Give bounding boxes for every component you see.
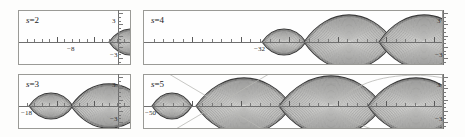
y-axis-tick xyxy=(443,13,448,14)
axis-tick xyxy=(338,101,339,106)
panel-s3-y-bottom-label: −3 xyxy=(110,115,117,123)
axis-tick xyxy=(173,39,174,42)
axis-tick xyxy=(87,39,88,42)
y-axis-tick xyxy=(443,77,448,78)
axis-tick xyxy=(42,103,43,106)
panel-s4-x-axis xyxy=(144,42,442,43)
axis-tick xyxy=(109,103,110,106)
axis-tick xyxy=(72,39,73,42)
axis-tick xyxy=(328,103,329,106)
axis-tick xyxy=(241,37,242,42)
y-axis-tick xyxy=(443,81,446,82)
axis-tick xyxy=(260,39,261,42)
panel-s5-plot-area: s=5 −50 xyxy=(144,75,442,128)
axis-tick xyxy=(231,39,232,42)
y-axis-tick xyxy=(443,17,446,18)
panel-s5-x-min-label: −50 xyxy=(145,109,156,117)
y-axis-tick xyxy=(443,115,446,116)
panel-s3-label-value: 3 xyxy=(35,79,40,89)
y-axis-tick xyxy=(118,62,121,63)
y-axis-tick xyxy=(118,103,121,104)
axis-tick xyxy=(270,39,271,42)
axis-tick xyxy=(27,103,28,106)
y-axis-tick xyxy=(118,58,123,59)
y-axis-tick xyxy=(443,100,448,101)
axis-tick xyxy=(396,103,397,106)
y-axis-tick xyxy=(118,17,121,18)
axis-tick xyxy=(212,103,213,106)
y-axis-tick xyxy=(443,122,448,123)
panel-s4-y-axis: 3 −3 xyxy=(436,10,460,65)
axis-tick xyxy=(102,39,103,42)
axis-tick xyxy=(27,39,28,42)
axis-tick xyxy=(260,103,261,106)
y-axis-tick xyxy=(118,107,121,108)
axis-tick xyxy=(34,103,35,106)
axis-tick xyxy=(434,101,435,106)
panel-s2-y-axis-line xyxy=(118,10,119,65)
panel-s2-y-axis: 3 −3 xyxy=(112,10,131,65)
y-axis-tick xyxy=(443,21,446,22)
axis-tick xyxy=(386,37,387,42)
axis-tick xyxy=(299,39,300,42)
y-axis-tick xyxy=(443,54,446,55)
panel-s5-label: s=5 xyxy=(151,79,164,89)
y-axis-tick xyxy=(118,122,123,123)
axis-tick xyxy=(94,37,95,42)
y-axis-tick xyxy=(443,85,446,86)
y-axis-tick xyxy=(118,39,121,40)
axis-tick xyxy=(163,103,164,106)
y-axis-tick xyxy=(118,51,121,52)
y-axis-tick xyxy=(443,88,448,89)
axis-tick xyxy=(328,39,329,42)
axis-tick xyxy=(250,103,251,106)
y-axis-tick xyxy=(443,32,446,33)
panel-s4-y-top-label: 3 xyxy=(437,17,441,25)
figure-root: s=2 −8 3 −3 s=3 −18 3 −3 xyxy=(0,0,465,137)
axis-tick xyxy=(154,39,155,42)
guide-curve xyxy=(164,74,274,129)
axis-tick xyxy=(192,37,193,42)
panel-s4-y-axis-line xyxy=(443,10,444,65)
guide-curve xyxy=(340,75,443,106)
axis-tick xyxy=(338,37,339,42)
axis-tick xyxy=(386,101,387,106)
panel-s3-label: s=3 xyxy=(26,79,39,89)
panel-s2-y-bottom-label: −3 xyxy=(110,51,117,59)
axis-tick xyxy=(64,39,65,42)
axis-tick xyxy=(434,37,435,42)
axis-tick xyxy=(34,39,35,42)
y-axis-tick xyxy=(443,36,448,37)
panel-s3-x-min-label: −18 xyxy=(21,109,32,117)
panel-s4-y-bottom-label: −3 xyxy=(435,51,442,59)
axis-tick xyxy=(221,39,222,42)
axis-tick xyxy=(49,39,50,42)
axis-tick xyxy=(250,39,251,42)
axis-tick xyxy=(102,103,103,106)
axis-tick xyxy=(318,103,319,106)
axis-tick xyxy=(163,39,164,42)
y-axis-tick xyxy=(443,111,448,112)
panel-s5: s=5 −50 xyxy=(143,74,443,129)
panel-s3-y-top-label: 3 xyxy=(112,81,116,89)
y-axis-tick xyxy=(443,39,446,40)
y-axis-tick xyxy=(118,96,121,97)
axis-tick xyxy=(367,39,368,42)
y-axis-tick xyxy=(443,51,446,52)
panel-s5-y-axis-line xyxy=(443,74,444,129)
axis-tick xyxy=(109,39,110,42)
axis-tick xyxy=(183,103,184,106)
axis-tick xyxy=(425,103,426,106)
y-axis-tick xyxy=(118,28,121,29)
y-axis-tick xyxy=(118,43,121,44)
y-axis-tick xyxy=(118,111,123,112)
y-axis-tick xyxy=(118,32,121,33)
y-axis-tick xyxy=(443,24,448,25)
axis-tick xyxy=(212,39,213,42)
axis-tick xyxy=(289,37,290,42)
y-axis-tick xyxy=(443,126,446,127)
y-axis-tick xyxy=(118,77,123,78)
guide-curve xyxy=(340,106,443,129)
y-axis-tick xyxy=(443,62,446,63)
axis-tick xyxy=(173,103,174,106)
